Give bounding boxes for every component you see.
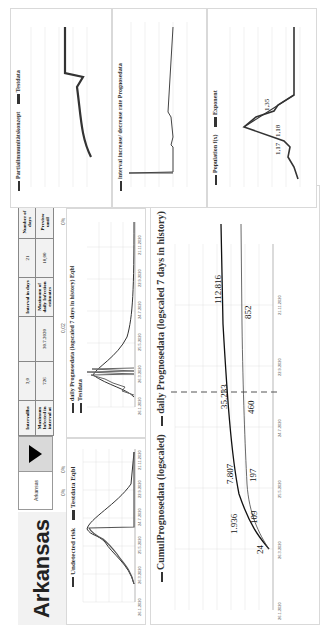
dashboard: Arkansas Arkansas Intervallhs 3,0 Interv… xyxy=(0,0,324,633)
cell: Maximum Infected in interval at xyxy=(36,401,54,436)
cell: Previsw until xyxy=(36,206,54,239)
cell: Number of days xyxy=(19,206,36,239)
chart-daily-prognose: daily Prognosedata (logscaled 7 days in … xyxy=(66,208,146,438)
dropdown-button[interactable] xyxy=(19,437,52,472)
state-selector-value: Arkansas xyxy=(19,472,52,509)
cell: 726 xyxy=(36,362,54,401)
cell: 21 xyxy=(19,239,36,278)
cell xyxy=(19,317,36,362)
chart-partial-immunity: Partialimmunitätskonzept Testdata xyxy=(10,8,112,208)
interval-rate-plot xyxy=(113,7,208,207)
chart-cumul-prognose: CumulPrognosedata (logscaled) daily Prog… xyxy=(150,185,320,625)
state-title-box: Arkansas xyxy=(18,512,66,625)
cell: Maximum of daily Infection estimates xyxy=(36,278,54,317)
undetected-risk-plot xyxy=(67,437,147,624)
cell: 30.7.2020 xyxy=(36,317,54,362)
daily-prognose-plot xyxy=(67,207,147,437)
cumul-prognose-plot xyxy=(151,184,321,624)
chart-undetected-risk: Undetected risk Testdata Eqbl 26.1.2020 … xyxy=(66,438,146,625)
cell: Intervallhs xyxy=(19,401,36,436)
chart-interval-rate: interval increase/ decrease rate Prognos… xyxy=(112,8,207,208)
state-title: Arkansas xyxy=(29,519,55,618)
partial-immunity-plot xyxy=(11,7,113,207)
chart-population-rt: Population f(x) Exponent 1,17 1,18 1,35 xyxy=(207,8,317,208)
cell: 3,0 xyxy=(19,362,36,401)
cell: 10,00 xyxy=(36,239,54,278)
state-selector[interactable]: Arkansas xyxy=(18,436,53,510)
cell: Interval in days xyxy=(19,278,36,317)
triangle-down-icon xyxy=(29,445,42,463)
